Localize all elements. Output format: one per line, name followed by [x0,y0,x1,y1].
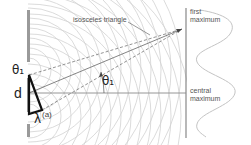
first-maximum-label-2: maximum [190,16,220,23]
theta-left-label: θ₁ [12,64,24,76]
theta-right-label: θ₁ [102,75,114,87]
d-label: d [14,86,22,100]
central-maximum-label-1: central [190,87,211,94]
first-maximum-label-1: first [190,8,201,15]
lambda-label: λ [34,113,41,125]
path-difference-triangle [29,75,42,114]
a-label: (a) [42,111,52,119]
barrier-bottom [27,124,30,137]
barrier-top [27,10,30,62]
central-maximum-label-2: maximum [190,95,220,102]
upper-ray [29,29,182,75]
isosceles-label: isosceles triangle [73,16,127,23]
